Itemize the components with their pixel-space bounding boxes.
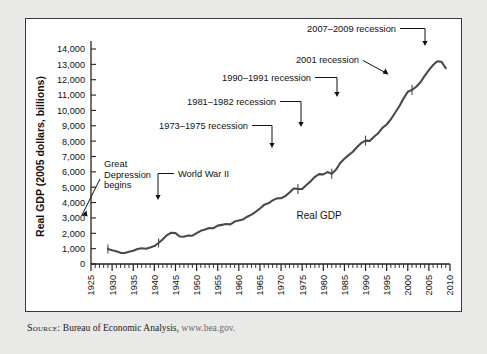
- chart-panel: 01,0002,0003,0004,0005,0006,0007,0008,00…: [25, 18, 462, 312]
- annotation-arrowhead: [269, 143, 274, 148]
- x-tick-label: 2010: [445, 275, 455, 295]
- y-tick-label: 1,000: [62, 244, 85, 254]
- x-tick-label: 1950: [192, 275, 202, 295]
- figure-container: 01,0002,0003,0004,0005,0006,0007,0008,00…: [0, 0, 487, 354]
- source-label: Source:: [27, 322, 60, 333]
- x-tick-label: 1970: [276, 275, 286, 295]
- annotation-great-depression: begins: [104, 180, 132, 190]
- y-tick-label: 3,000: [62, 213, 85, 223]
- x-tick-label: 2005: [424, 275, 434, 295]
- y-tick-label: 5,000: [62, 183, 85, 193]
- y-tick-label: 4,000: [62, 198, 85, 208]
- y-axis-title: Real GDP (2005 dollars, billions): [34, 76, 46, 237]
- x-tick-label: 1985: [340, 275, 350, 295]
- annotation-recession-2007-2009: 2007–2009 recession: [307, 24, 396, 34]
- y-tick-label: 2,000: [62, 229, 85, 239]
- y-tick-label: 13,000: [57, 60, 85, 70]
- x-tick-label: 1945: [171, 275, 181, 295]
- y-tick-label: 9,000: [62, 121, 85, 131]
- annotation-great-depression: Depression: [104, 170, 151, 180]
- y-tick-label: 0: [80, 259, 85, 269]
- y-tick-label: 10,000: [57, 106, 85, 116]
- x-tick-label: 1940: [150, 275, 160, 295]
- y-tick-label: 11,000: [58, 90, 85, 100]
- y-tick-label: 8,000: [62, 137, 85, 147]
- gdp-data-line: [108, 61, 446, 253]
- y-tick-label: 6,000: [62, 167, 85, 177]
- annotation-arrowhead: [155, 195, 160, 200]
- y-tick-label: 12,000: [57, 75, 85, 85]
- x-tick-label: 1990: [361, 275, 371, 295]
- y-tick-label: 7,000: [62, 152, 85, 162]
- x-tick-label: 1930: [108, 275, 118, 295]
- real-gdp-line-chart: 01,0002,0003,0004,0005,0006,0007,0008,00…: [26, 19, 460, 310]
- source-note: Source: Bureau of Economic Analysis, www…: [27, 322, 467, 333]
- annotation-recession-2001: 2001 recession: [296, 55, 359, 65]
- annotation-world-war-ii: World War II: [178, 169, 229, 179]
- x-tick-label: 1925: [86, 275, 96, 295]
- series-label-real-gdp: Real GDP: [297, 210, 342, 221]
- x-tick-label: 1995: [382, 275, 392, 295]
- annotation-great-depression: Great: [104, 159, 128, 169]
- x-tick-label: 2000: [403, 275, 413, 295]
- annotation-arrowhead: [298, 122, 303, 127]
- x-tick-label: 1955: [213, 275, 223, 295]
- source-text: Bureau of Economic Analysis,: [63, 323, 179, 333]
- x-tick-label: 1935: [129, 275, 139, 295]
- source-url[interactable]: www.bea.gov.: [181, 323, 235, 333]
- annotation-recession-1990-1991: 1990–1991 recession: [222, 73, 311, 83]
- x-tick-label: 1965: [255, 275, 265, 295]
- x-tick-label: 1980: [319, 275, 329, 295]
- annotation-arrowhead: [334, 92, 339, 97]
- annotation-arrowhead: [422, 41, 427, 46]
- annotation-recession-1981-1982: 1981–1982 recession: [187, 97, 276, 107]
- annotation-recession-1973-1975: 1973–1975 recession: [159, 121, 248, 131]
- annotation-leader-2001: [363, 61, 386, 74]
- y-tick-label: 14,000: [57, 44, 85, 54]
- x-tick-label: 1975: [298, 275, 308, 295]
- x-tick-label: 1960: [234, 275, 244, 295]
